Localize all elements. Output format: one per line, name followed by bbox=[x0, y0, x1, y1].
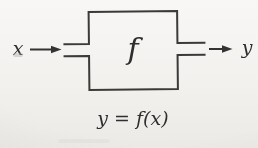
equation-caption: y = f(x) bbox=[96, 107, 168, 129]
function-machine-diagram: x f y y = f(x) bbox=[0, 0, 258, 148]
scanned-figure-page: x f y y = f(x) bbox=[0, 0, 258, 148]
output-arrowhead-icon bbox=[222, 45, 233, 52]
function-label: f bbox=[125, 31, 143, 66]
input-label: x bbox=[13, 37, 24, 59]
input-arrow bbox=[30, 46, 62, 53]
output-label: y bbox=[241, 36, 253, 58]
output-arrow bbox=[209, 45, 233, 52]
input-arrowhead-icon bbox=[51, 46, 62, 53]
